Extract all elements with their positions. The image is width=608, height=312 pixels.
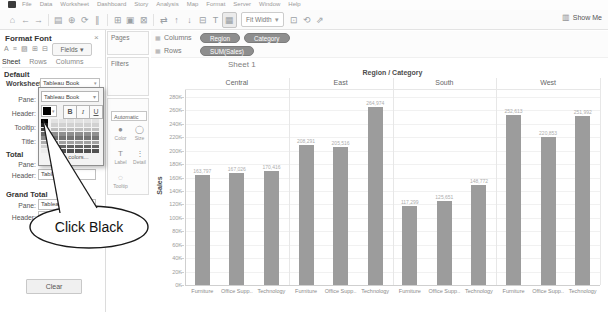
menu-dashboard[interactable]: Dashboard: [97, 1, 126, 9]
palette-color-swatch[interactable]: [67, 123, 74, 127]
bar-central-technology[interactable]: [264, 171, 279, 285]
shading-icon[interactable]: ▨: [21, 45, 28, 53]
marks-detail-button[interactable]: ⋮Detail: [130, 149, 149, 165]
palette-gray-swatch[interactable]: [41, 123, 48, 127]
palette-color-swatch[interactable]: [84, 141, 91, 145]
undo-icon[interactable]: ←: [19, 13, 32, 27]
group-icon[interactable]: ⊟: [196, 13, 209, 27]
palette-color-swatch[interactable]: [51, 141, 58, 145]
start-page-icon[interactable]: ⌂: [6, 13, 19, 27]
palette-color-swatch[interactable]: [92, 145, 99, 149]
refresh-icon[interactable]: ⟳: [78, 13, 91, 27]
palette-color-swatch[interactable]: [84, 149, 91, 153]
palette-color-swatch[interactable]: [84, 145, 91, 149]
sort-descending-icon[interactable]: ↓: [183, 13, 196, 27]
bar-west-technology[interactable]: [575, 116, 590, 285]
close-icon[interactable]: ×: [94, 33, 99, 42]
reset-icon[interactable]: ⟲: [301, 13, 314, 27]
menu-worksheet[interactable]: Worksheet: [60, 1, 89, 9]
format-tab-sheet[interactable]: Sheet: [2, 58, 20, 65]
bar-east-technology[interactable]: [368, 107, 383, 285]
bar-central-office-supp-[interactable]: [229, 173, 244, 285]
bar-east-office-supp-[interactable]: [333, 147, 348, 285]
palette-color-swatch[interactable]: [92, 132, 99, 136]
palette-color-swatch[interactable]: [92, 128, 99, 132]
share-icon[interactable]: ⇗: [314, 13, 327, 27]
total-header-font-dropdown[interactable]: Tableau B..: [38, 169, 96, 180]
palette-gray-swatch[interactable]: [41, 132, 48, 136]
palette-color-swatch[interactable]: [51, 128, 58, 132]
highlight-table-icon[interactable]: ▦: [222, 12, 237, 28]
sort-ascending-icon[interactable]: ↑: [170, 13, 183, 27]
palette-color-swatch[interactable]: [67, 145, 74, 149]
palette-color-swatch[interactable]: [59, 128, 66, 132]
palette-color-swatch[interactable]: [84, 128, 91, 132]
add-data-icon[interactable]: ⊕: [65, 13, 78, 27]
palette-color-swatch[interactable]: [51, 136, 58, 140]
palette-color-swatch[interactable]: [75, 123, 82, 127]
palette-color-swatch[interactable]: [92, 136, 99, 140]
palette-color-swatch[interactable]: [67, 149, 74, 153]
palette-color-swatch[interactable]: [59, 145, 66, 149]
menu-file[interactable]: File: [22, 1, 32, 9]
palette-color-swatch[interactable]: [59, 136, 66, 140]
mark-type-dropdown[interactable]: Automatic: [111, 111, 147, 121]
fit-selector[interactable]: Fit Width ▾: [241, 12, 284, 27]
grand-total-pane-font-dropdown[interactable]: Tableau Me..: [38, 199, 96, 210]
format-tab-rows[interactable]: Rows: [29, 58, 47, 65]
palette-color-swatch[interactable]: [75, 141, 82, 145]
shelf-pill-region[interactable]: Region: [200, 33, 240, 43]
alignment-icon[interactable]: ≡: [13, 45, 17, 53]
palette-black-swatch[interactable]: [41, 119, 48, 123]
grand-total-header-font-dropdown[interactable]: Tableau Boo..: [38, 211, 96, 222]
palette-gray-swatch[interactable]: [41, 145, 48, 149]
marks-tooltip-button[interactable]: ◌Tooltip: [111, 173, 130, 189]
bar-west-office-supp-[interactable]: [541, 137, 556, 285]
palette-color-swatch[interactable]: [75, 149, 82, 153]
marks-size-button[interactable]: ◯Size: [130, 125, 149, 141]
bar-south-furniture[interactable]: [402, 206, 417, 285]
bar-east-furniture[interactable]: [299, 145, 314, 285]
palette-color-swatch[interactable]: [75, 136, 82, 140]
menu-analysis[interactable]: Analysis: [156, 1, 178, 9]
palette-color-swatch[interactable]: [67, 119, 74, 123]
marks-label-button[interactable]: TLabel: [111, 149, 130, 165]
show-me-button[interactable]: ▥ Show Me: [562, 13, 602, 22]
palette-gray-swatch[interactable]: [41, 141, 48, 145]
palette-gray-swatch[interactable]: [41, 128, 48, 132]
palette-color-swatch[interactable]: [59, 141, 66, 145]
font-icon[interactable]: A: [4, 45, 9, 53]
fix-axes-icon[interactable]: ⊡: [288, 13, 301, 27]
shelf-pill-sum-sales[interactable]: SUM(Sales): [200, 46, 254, 56]
save-icon[interactable]: ▤: [52, 13, 65, 27]
bar-west-furniture[interactable]: [506, 115, 521, 285]
borders-icon[interactable]: ⊞: [32, 45, 38, 53]
palette-color-swatch[interactable]: [67, 141, 74, 145]
clear-sheet-icon[interactable]: ⊠: [137, 13, 150, 27]
menu-help[interactable]: Help: [288, 1, 300, 9]
bar-south-technology[interactable]: [471, 185, 486, 285]
palette-color-swatch[interactable]: [67, 128, 74, 132]
palette-color-swatch[interactable]: [92, 119, 99, 123]
palette-color-swatch[interactable]: [59, 149, 66, 153]
palette-color-swatch[interactable]: [92, 123, 99, 127]
menu-format[interactable]: Format: [206, 1, 225, 9]
pages-card[interactable]: Pages: [107, 31, 149, 55]
palette-gray-swatch[interactable]: [41, 149, 48, 153]
pause-icon[interactable]: ∥: [91, 13, 104, 27]
filters-card[interactable]: Filters: [107, 57, 149, 96]
palette-color-swatch[interactable]: [75, 119, 82, 123]
palette-color-swatch[interactable]: [67, 136, 74, 140]
shelf-pill-category[interactable]: Category: [244, 33, 290, 43]
menu-story[interactable]: Story: [134, 1, 148, 9]
format-tab-columns[interactable]: Columns: [56, 58, 84, 65]
palette-color-swatch[interactable]: [51, 123, 58, 127]
palette-color-swatch[interactable]: [59, 119, 66, 123]
new-worksheet-icon[interactable]: ⊞: [111, 13, 124, 27]
palette-color-swatch[interactable]: [59, 132, 66, 136]
clear-button[interactable]: Clear: [26, 279, 82, 294]
show-labels-icon[interactable]: T: [209, 13, 222, 27]
sheet-title[interactable]: Sheet 1: [228, 60, 256, 69]
palette-color-swatch[interactable]: [51, 145, 58, 149]
marks-color-button[interactable]: ●Color: [111, 125, 130, 141]
